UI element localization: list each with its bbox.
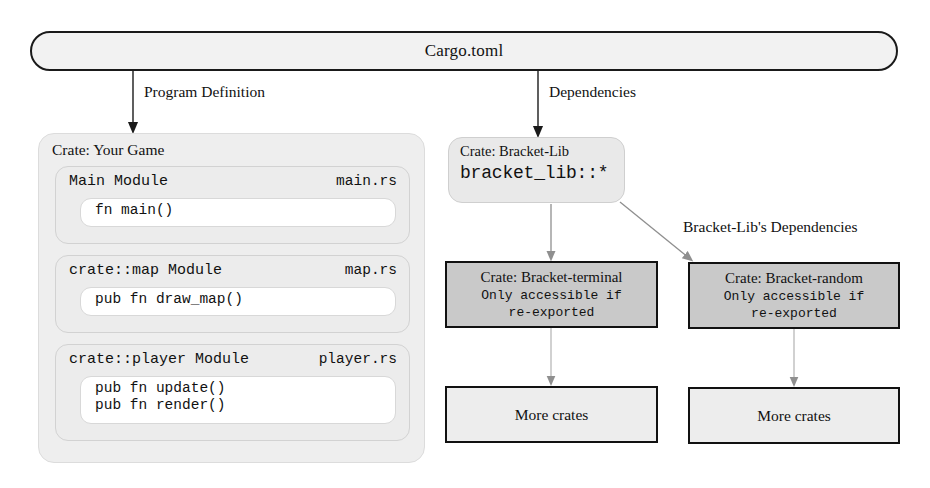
connector-lib-to-bracket-random [620,202,689,258]
bracket-random-title: Crate: Bracket-random [690,264,898,288]
module-file-main: main.rs [336,173,397,189]
crate-group-your-game[interactable]: Crate: Your Game Main Module main.rs fn … [38,133,425,463]
crate-group-title: Crate: Your Game [52,141,164,159]
more-crates-label-random: More crates [757,407,831,425]
more-crates-box-terminal[interactable]: More crates [445,386,658,443]
cargo-toml-node[interactable]: Cargo.toml [30,31,898,71]
module-name-main: Main Module [69,173,168,190]
module-file-player: player.rs [319,351,397,367]
bracket-terminal-title: Crate: Bracket-terminal [447,263,656,287]
bracket-lib-path: bracket_lib::* [460,163,608,183]
module-name-player: crate::player Module [69,351,249,368]
function-player-1: pub fn render() [95,397,395,414]
more-crates-label-terminal: More crates [515,406,589,424]
bracket-terminal-note-line1: Only accessible if [447,287,656,304]
module-box-map[interactable]: crate::map Module map.rs pub fn draw_map… [55,255,410,333]
cargo-toml-label: Cargo.toml [425,41,504,61]
crate-box-bracket-terminal[interactable]: Crate: Bracket-terminal Only accessible … [445,261,658,328]
module-header-main: Main Module main.rs [69,173,397,190]
edge-label-dependencies: Dependencies [549,83,636,101]
module-header-player: crate::player Module player.rs [69,351,397,368]
function-box-map[interactable]: pub fn draw_map() [80,287,396,316]
module-header-map: crate::map Module map.rs [69,262,397,279]
function-box-main[interactable]: fn main() [80,198,396,227]
module-file-map: map.rs [345,262,397,278]
bracket-random-note-line2: re-exported [690,305,898,322]
module-box-player[interactable]: crate::player Module player.rs pub fn up… [55,344,410,441]
edge-label-bracket-lib-dependencies: Bracket-Lib's Dependencies [683,218,858,236]
crate-box-bracket-random[interactable]: Crate: Bracket-random Only accessible if… [688,262,900,329]
function-main-0: fn main() [95,202,395,219]
crate-box-bracket-lib[interactable]: Crate: Bracket-Lib bracket_lib::* [448,137,625,203]
bracket-lib-title: Crate: Bracket-Lib [460,143,569,160]
function-box-player[interactable]: pub fn update() pub fn render() [80,376,396,424]
edge-label-program-definition: Program Definition [144,83,265,101]
module-name-map: crate::map Module [69,262,222,279]
bracket-random-note-line1: Only accessible if [690,288,898,305]
more-crates-box-random[interactable]: More crates [688,387,900,444]
diagram-canvas: Cargo.toml Program Definition Dependenci… [0,0,930,488]
module-box-main[interactable]: Main Module main.rs fn main() [55,166,410,244]
function-player-0: pub fn update() [95,380,395,397]
function-map-0: pub fn draw_map() [95,291,395,308]
bracket-terminal-note-line2: re-exported [447,304,656,321]
